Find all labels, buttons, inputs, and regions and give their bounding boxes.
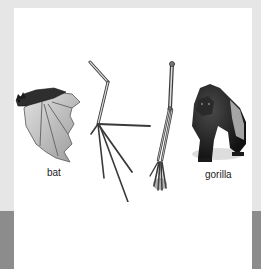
- gorilla-illustration: [188, 82, 252, 166]
- bat-illustration: [14, 86, 84, 166]
- bat-forelimb-skeleton: [84, 60, 154, 202]
- label-bat: bat: [47, 168, 61, 178]
- gorilla-forelimb-skeleton: [148, 60, 184, 196]
- label-gorilla: gorilla: [205, 170, 232, 180]
